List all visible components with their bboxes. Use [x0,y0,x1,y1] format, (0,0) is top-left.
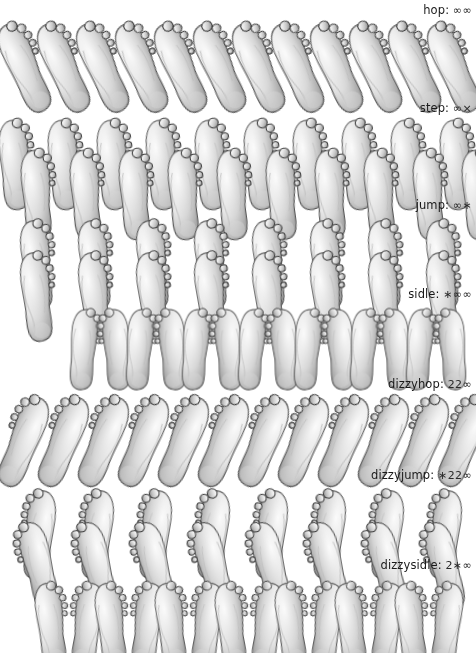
gait-label-separator: : [445,101,453,115]
print-band [0,388,476,454]
gait-name: hop [423,3,445,17]
print-band [0,14,476,80]
gait-name: step [420,101,445,115]
gait-label-separator: : [440,377,448,391]
gait-notation: ∞∞ [453,4,472,17]
gait-label-dizzysidle: dizzysidle: 2∗∞ [381,558,472,572]
gait-row-dizzysidle [0,572,476,646]
gait-notation: ∗∞∞ [443,288,472,301]
gait-name: sidle [408,287,435,301]
gait-notation: 2∗∞ [445,559,472,572]
gait-label-dizzyhop: dizzyhop: 22∞ [388,377,472,391]
gait-notation: ∞× [453,102,472,115]
gait-name: dizzyjump [371,468,430,482]
gait-label-separator: : [430,468,438,482]
gait-name: jump [416,198,445,212]
gait-label-separator: : [445,3,453,17]
gait-label-sidle: sidle: ∗∞∞ [408,287,472,301]
gait-label-separator: : [445,198,453,212]
gait-notation: ∞∗ [453,199,472,212]
gait-label-hop: hop: ∞∞ [423,3,472,17]
print-band [0,142,476,210]
gait-label-jump: jump: ∞∗ [416,198,472,212]
gait-row-hop [0,14,476,80]
gait-row-step [0,112,476,180]
gait-label-step: step: ∞× [420,101,472,115]
gait-notation: ∗22∞ [438,469,472,482]
gait-row-sidle [0,297,476,365]
gait-notation: 22∞ [448,378,472,391]
gait-row-dizzyhop [0,388,476,454]
gait-row-jump [0,212,476,280]
gait-name: dizzysidle [381,558,438,572]
gait-row-dizzyjump [0,482,476,550]
print-band [0,572,476,646]
gait-name: dizzyhop [388,377,440,391]
gait-label-dizzyjump: dizzyjump: ∗22∞ [371,468,472,482]
print-band [0,297,476,365]
